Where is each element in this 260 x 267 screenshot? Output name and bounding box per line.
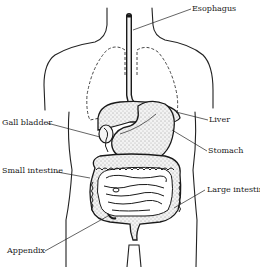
large-intestine (90, 154, 181, 240)
label-liver: Liver (209, 115, 230, 124)
label-large-intestine: Large intestine (207, 185, 260, 194)
label-stomach: Stomach (208, 146, 244, 155)
label-gall-bladder: Gall bladder (2, 118, 52, 127)
label-appendix: Appendix (7, 246, 45, 255)
gall-bladder (99, 125, 113, 152)
label-esophagus: Esophagus (192, 4, 236, 13)
digestive-system-diagram (0, 0, 260, 267)
label-small-intestine: Small intestine (2, 166, 63, 175)
